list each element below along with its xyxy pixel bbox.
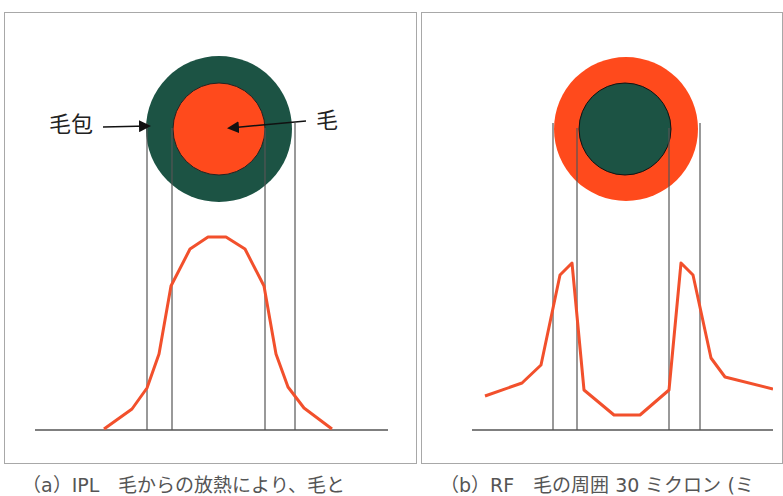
hair-circle	[173, 83, 265, 175]
caption-ipl: （a）IPL 毛からの放熱により、毛と	[22, 476, 345, 495]
follicle-label: 毛包	[49, 114, 93, 136]
hair-label: 毛	[316, 110, 338, 132]
follicle-arrow	[103, 126, 148, 127]
hair-core-circle	[579, 83, 671, 175]
heat-curve-rf	[485, 263, 773, 415]
caption-rf: （b）RF 毛の周囲 30 ミクロン (ミ	[440, 476, 754, 495]
heat-curve-ipl	[104, 237, 332, 429]
